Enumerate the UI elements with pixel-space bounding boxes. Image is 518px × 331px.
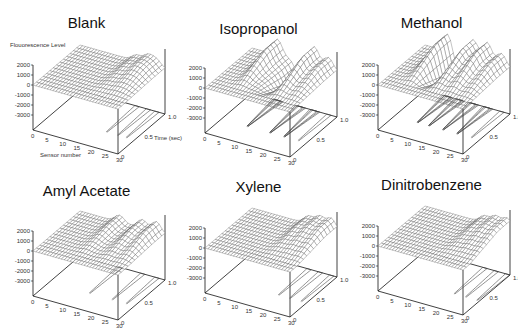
surface-plot: 200010000-1000-2000-300005101520253000.5… <box>0 166 173 331</box>
z-tick-label: -1000 <box>360 253 376 259</box>
x-tick-label: 15 <box>419 306 426 312</box>
x-tick-label: 25 <box>102 153 109 159</box>
base-contours <box>89 267 159 304</box>
z-tick-label: -2000 <box>15 102 31 108</box>
surface-mesh <box>378 206 510 270</box>
z-tick-label: 2000 <box>17 228 31 234</box>
y-tick-label: 0.5 <box>490 134 499 140</box>
surface-mesh <box>33 211 165 275</box>
panel-dinitrobenzene: Dinitrobenzene 200010000-1000-2000-30000… <box>345 166 518 331</box>
x-tick-label: 25 <box>447 314 454 320</box>
z-tick-label: -1000 <box>360 92 376 98</box>
y-tick-label: 0.5 <box>490 295 499 301</box>
z-tick-label: 0 <box>199 85 203 91</box>
z-tick-label: -3000 <box>187 275 203 281</box>
x-tick-label: 0 <box>376 294 380 300</box>
x-tick-label: 25 <box>447 153 454 159</box>
z-tick-label: 2000 <box>17 62 31 68</box>
x-tick-label: 20 <box>433 149 440 155</box>
x-tick-label: 5 <box>217 140 221 146</box>
x-tick-label: 20 <box>433 310 440 316</box>
z-tick-label: -2000 <box>187 265 203 271</box>
x-tick-label: 20 <box>88 315 95 321</box>
y-tick-label: 0 <box>121 320 125 326</box>
surface-plot: 200010000-1000-2000-300005101520253000.5… <box>345 0 518 165</box>
z-tick-label: -2000 <box>360 102 376 108</box>
panel-xylene: Xylene 200010000-1000-2000-3000051015202… <box>172 166 345 331</box>
z-tick-label: -1000 <box>15 258 31 264</box>
x-tick-label: 15 <box>246 148 253 154</box>
z-tick-label: -3000 <box>187 115 203 121</box>
z-tick-label: 1000 <box>17 238 31 244</box>
z-tick-label: -3000 <box>360 112 376 118</box>
x-tick-label: 20 <box>88 149 95 155</box>
x-tick-label: 15 <box>246 308 253 314</box>
z-tick-label: 2000 <box>362 62 376 68</box>
surface-plot: 200010000-1000-2000-300005101520253000.5… <box>172 0 345 165</box>
z-tick-label: 2000 <box>189 225 203 231</box>
y-tick-label: 0.5 <box>145 134 154 140</box>
x-tick-label: 20 <box>260 312 267 318</box>
panel-blank: Blank Flouorescence Level Sensor number … <box>0 0 173 165</box>
x-tick-label: 5 <box>390 137 394 143</box>
x-tick-label: 15 <box>419 145 426 151</box>
z-tick-label: -1000 <box>15 92 31 98</box>
x-tick-label: 5 <box>217 300 221 306</box>
surface-mesh <box>33 45 165 109</box>
x-tick-label: 5 <box>390 298 394 304</box>
z-tick-label: -1000 <box>187 255 203 261</box>
surface-plot: 200010000-1000-2000-300005101520253000.5… <box>345 166 518 331</box>
x-tick-label: 0 <box>203 136 207 142</box>
y-tick-label: 0.5 <box>145 300 154 306</box>
x-tick-label: 5 <box>45 303 49 309</box>
y-tick-label: 0 <box>293 317 297 323</box>
x-tick-label: 25 <box>102 319 109 325</box>
panel-isopropanol: Isopropanol 200010000-1000-2000-30000510… <box>172 0 345 165</box>
x-tick-label: 10 <box>404 302 411 308</box>
figure-grid: Blank Flouorescence Level Sensor number … <box>0 0 518 331</box>
z-tick-label: 1000 <box>17 72 31 78</box>
x-tick-label: 10 <box>59 307 66 313</box>
z-tick-label: -3000 <box>360 273 376 279</box>
surface-mesh <box>205 208 337 272</box>
x-tick-label: 15 <box>74 311 81 317</box>
z-tick-label: 0 <box>372 243 376 249</box>
y-tick-label: 0 <box>466 315 470 321</box>
x-tick-label: 0 <box>376 133 380 139</box>
z-tick-label: 1000 <box>362 72 376 78</box>
z-tick-label: 0 <box>27 248 31 254</box>
x-tick-label: 20 <box>260 152 267 158</box>
y-tick-label: 0 <box>121 154 125 160</box>
z-tick-label: 0 <box>199 245 203 251</box>
y-tick-label: 0 <box>466 154 470 160</box>
x-tick-label: 10 <box>231 304 238 310</box>
x-tick-label: 25 <box>274 316 281 322</box>
panel-methanol: Methanol 200010000-1000-2000-30000510152… <box>345 0 518 165</box>
z-tick-label: -3000 <box>15 112 31 118</box>
x-tick-label: 10 <box>231 144 238 150</box>
x-tick-label: 0 <box>31 299 35 305</box>
x-tick-label: 15 <box>74 145 81 151</box>
y-tick-label: 0 <box>293 157 297 163</box>
surface-plot: 200010000-1000-2000-300005101520253000.5… <box>172 166 345 331</box>
z-tick-label: 0 <box>27 82 31 88</box>
z-tick-label: -2000 <box>360 263 376 269</box>
x-tick-label: 10 <box>59 141 66 147</box>
x-tick-label: 10 <box>404 141 411 147</box>
z-tick-label: 2000 <box>189 65 203 71</box>
x-tick-label: 0 <box>31 133 35 139</box>
z-tick-label: 1000 <box>189 235 203 241</box>
panel-amyl-acetate: Amyl Acetate 200010000-1000-2000-3000051… <box>0 166 173 331</box>
z-tick-label: 2000 <box>362 223 376 229</box>
y-tick-label: 1.0 <box>513 114 518 120</box>
y-tick-label: 1.0 <box>513 275 518 281</box>
z-tick-label: 0 <box>372 82 376 88</box>
z-tick-label: -3000 <box>15 278 31 284</box>
x-tick-label: 5 <box>45 137 49 143</box>
x-tick-label: 25 <box>274 156 281 162</box>
y-tick-label: 0.5 <box>317 137 326 143</box>
z-tick-label: -1000 <box>187 95 203 101</box>
z-tick-label: 1000 <box>362 233 376 239</box>
y-tick-label: 0.5 <box>317 297 326 303</box>
x-tick-label: 0 <box>203 296 207 302</box>
